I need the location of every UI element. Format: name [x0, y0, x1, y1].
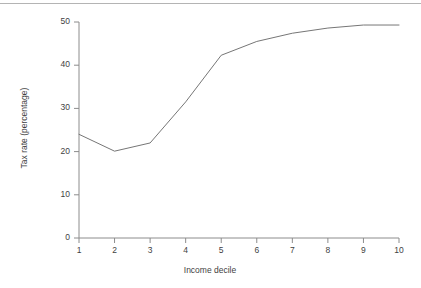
x-axis-tick-label: 7 [282, 246, 302, 255]
x-axis-tick-label: 10 [389, 246, 409, 255]
x-axis-tick-label: 2 [105, 246, 125, 255]
x-axis-tick-label: 9 [353, 246, 373, 255]
y-axis-tick-label: 20 [44, 147, 70, 156]
y-axis-tick-label: 0 [44, 233, 70, 242]
y-axis-tick-label: 40 [44, 60, 70, 69]
data-series-line [79, 25, 399, 151]
line-chart-plot [0, 0, 421, 288]
x-axis-tick-label: 3 [140, 246, 160, 255]
x-axis-ticks [79, 238, 399, 243]
y-axis-ticks [74, 22, 79, 238]
y-axis-tick-label: 30 [44, 103, 70, 112]
x-axis-tick-label: 6 [247, 246, 267, 255]
x-axis-tick-label: 4 [176, 246, 196, 255]
y-axis-title: Tax rate (percentage) [19, 68, 29, 188]
x-axis-tick-label: 5 [211, 246, 231, 255]
chart-figure: 01020304050 12345678910 Tax rate (percen… [0, 0, 421, 288]
x-axis-tick-label: 1 [69, 246, 89, 255]
y-axis-tick-label: 10 [44, 190, 70, 199]
x-axis-title: Income decile [150, 265, 270, 275]
y-axis-tick-label: 50 [44, 17, 70, 26]
x-axis-tick-label: 8 [318, 246, 338, 255]
